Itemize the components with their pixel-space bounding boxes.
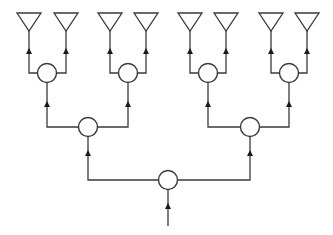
arrow-up-icon	[143, 48, 149, 54]
arrow-up-icon	[286, 101, 292, 107]
arrow-up-icon	[205, 101, 211, 107]
arrow-up-icon	[223, 48, 229, 54]
splitter-node-root	[159, 171, 178, 190]
antenna-icon	[17, 13, 41, 31]
splitter-node-level1	[280, 64, 299, 83]
antenna-icon	[214, 13, 238, 31]
arrow-up-icon	[187, 48, 193, 54]
antenna-icon	[178, 13, 202, 31]
splitter-node-level1	[38, 64, 57, 83]
feed-network-diagram	[0, 0, 333, 235]
splitter-node-level2	[79, 118, 98, 137]
arrow-up-icon	[26, 48, 32, 54]
arrow-up-icon	[107, 48, 113, 54]
arrow-up-icon	[63, 48, 69, 54]
arrow-up-icon	[165, 203, 171, 209]
arrow-up-icon	[85, 150, 91, 156]
antenna-icon	[295, 13, 319, 31]
antenna-icon	[134, 13, 158, 31]
antenna-icon	[54, 13, 78, 31]
level1-branches	[26, 31, 310, 73]
splitter-node-level1	[119, 64, 138, 83]
arrow-up-icon	[268, 48, 274, 54]
splitter-node-level2	[241, 118, 260, 137]
arrow-up-icon	[247, 150, 253, 156]
arrow-up-icon	[44, 101, 50, 107]
splitter-node-level1	[199, 64, 218, 83]
antenna-array	[17, 13, 319, 31]
input-feed	[165, 190, 171, 227]
antenna-icon	[98, 13, 122, 31]
antenna-icon	[259, 13, 283, 31]
arrow-up-icon	[125, 101, 131, 107]
arrow-up-icon	[304, 48, 310, 54]
